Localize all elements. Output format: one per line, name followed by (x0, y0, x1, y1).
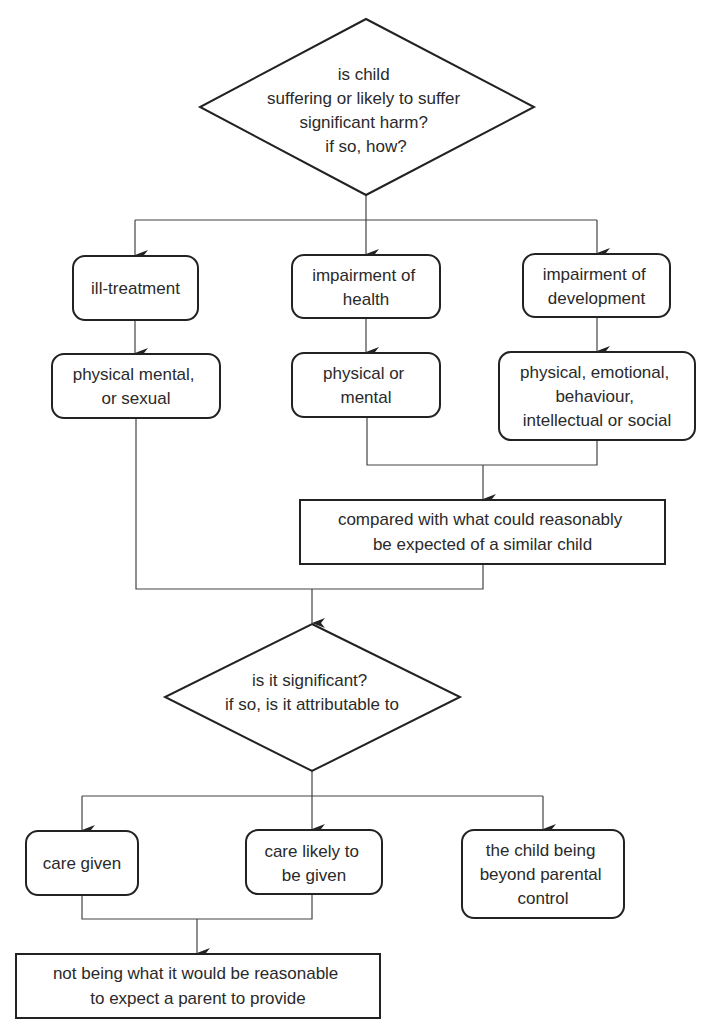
edge-merge-care (82, 894, 312, 919)
node-ill-treatment: ill-treatment (73, 256, 198, 320)
node-not-reasonable-parent: not being what it would be reasonable to… (16, 954, 380, 1018)
node-care-given: care given (26, 831, 138, 895)
node-text: care given (43, 854, 121, 873)
decision-is-it-significant: is it significant? if so, is it attribut… (165, 624, 460, 771)
node-text: ill-treatment (91, 279, 180, 298)
node-beyond-parental-control: the child being beyond parental control (462, 830, 624, 918)
node-development-types: physical, emotional, behaviour, intellec… (499, 352, 695, 440)
node-impairment-health: impairment of health (292, 255, 440, 318)
node-compared-similar-child: compared with what could reasonably be e… (300, 500, 665, 564)
node-ill-treatment-types: physical mental, or sexual (52, 354, 220, 418)
node-impairment-development: impairment of development (523, 254, 670, 317)
flowchart: is child suffering or likely to suffer s… (0, 0, 716, 1036)
node-health-types: physical or mental (292, 353, 440, 417)
node-care-likely: care likely to be given (246, 830, 382, 894)
decision-significant-harm: is child suffering or likely to suffer s… (200, 19, 534, 195)
